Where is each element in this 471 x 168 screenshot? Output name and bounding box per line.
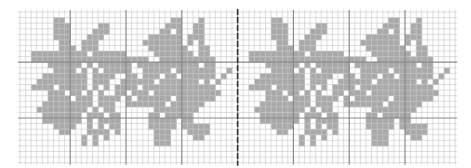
filled-stitch: [282, 85, 288, 91]
filled-stitch: [422, 45, 428, 51]
filled-stitch: [221, 73, 227, 79]
filled-stitch: [187, 107, 193, 113]
filled-stitch: [332, 62, 338, 68]
filled-stitch: [98, 124, 104, 130]
filled-stitch: [277, 73, 283, 79]
filled-stitch: [171, 34, 177, 40]
filled-stitch: [160, 29, 166, 35]
filled-stitch: [383, 68, 389, 74]
filled-stitch: [76, 118, 82, 124]
filled-stitch: [76, 90, 82, 96]
filled-stitch: [93, 68, 99, 74]
filled-stitch: [282, 45, 288, 51]
filled-stitch: [366, 40, 372, 46]
filled-stitch: [81, 101, 87, 107]
filled-stitch: [104, 101, 110, 107]
filled-stitch: [160, 34, 166, 40]
filled-stitch: [215, 90, 221, 96]
filled-stitch: [109, 96, 115, 102]
filled-stitch: [81, 85, 87, 91]
filled-stitch: [277, 68, 283, 74]
filled-stitch: [416, 45, 422, 51]
filled-stitch: [148, 40, 154, 46]
filled-stitch: [360, 68, 366, 74]
filled-stitch: [282, 40, 288, 46]
filled-stitch: [271, 29, 277, 35]
filled-stitch: [115, 96, 121, 102]
filled-stitch: [165, 45, 171, 51]
filled-stitch: [154, 68, 160, 74]
filled-stitch: [59, 90, 65, 96]
filled-stitch: [338, 79, 344, 85]
chart-cells: [31, 18, 450, 147]
filled-stitch: [160, 96, 166, 102]
filled-stitch: [210, 90, 216, 96]
filled-stitch: [394, 34, 400, 40]
filled-stitch: [282, 118, 288, 124]
filled-stitch: [271, 118, 277, 124]
filled-stitch: [104, 135, 110, 141]
filled-stitch: [321, 85, 327, 91]
filled-stitch: [305, 118, 311, 124]
filled-stitch: [310, 107, 316, 113]
filled-stitch: [193, 129, 199, 135]
filled-stitch: [383, 90, 389, 96]
filled-stitch: [93, 73, 99, 79]
filled-stitch: [42, 85, 48, 91]
filled-stitch: [249, 85, 255, 91]
filled-stitch: [394, 45, 400, 51]
filled-stitch: [416, 135, 422, 141]
filled-stitch: [293, 73, 299, 79]
filled-stitch: [349, 90, 355, 96]
filled-stitch: [165, 129, 171, 135]
filled-stitch: [405, 68, 411, 74]
filled-stitch: [372, 90, 378, 96]
filled-stitch: [316, 129, 322, 135]
filled-stitch: [109, 124, 115, 130]
filled-stitch: [165, 29, 171, 35]
filled-stitch: [148, 34, 154, 40]
filled-stitch: [388, 51, 394, 57]
filled-stitch: [411, 124, 417, 130]
filled-stitch: [143, 62, 149, 68]
filled-stitch: [277, 34, 283, 40]
filled-stitch: [160, 124, 166, 130]
filled-stitch: [109, 68, 115, 74]
filled-stitch: [377, 34, 383, 40]
filled-stitch: [115, 124, 121, 130]
filled-stitch: [187, 96, 193, 102]
filled-stitch: [160, 79, 166, 85]
filled-stitch: [154, 124, 160, 130]
filled-stitch: [377, 29, 383, 35]
filled-stitch: [104, 129, 110, 135]
filled-stitch: [416, 40, 422, 46]
filled-stitch: [187, 79, 193, 85]
filled-stitch: [98, 79, 104, 85]
filled-stitch: [372, 135, 378, 141]
filled-stitch: [109, 118, 115, 124]
filled-stitch: [87, 40, 93, 46]
filled-stitch: [305, 124, 311, 130]
filled-stitch: [332, 124, 338, 130]
filled-stitch: [76, 62, 82, 68]
filled-stitch: [394, 18, 400, 24]
filled-stitch: [405, 34, 411, 40]
filled-stitch: [277, 18, 283, 24]
filled-stitch: [171, 101, 177, 107]
filled-stitch: [215, 79, 221, 85]
filled-stitch: [187, 90, 193, 96]
filled-stitch: [383, 96, 389, 102]
filled-stitch: [193, 34, 199, 40]
filled-stitch: [422, 124, 428, 130]
filled-stitch: [171, 51, 177, 57]
filled-stitch: [405, 62, 411, 68]
filled-stitch: [204, 129, 210, 135]
filled-stitch: [277, 40, 283, 46]
filled-stitch: [266, 118, 272, 124]
filled-stitch: [383, 140, 389, 146]
filled-stitch: [316, 90, 322, 96]
filled-stitch: [422, 129, 428, 135]
filled-stitch: [377, 40, 383, 46]
filled-stitch: [282, 34, 288, 40]
filled-stitch: [187, 129, 193, 135]
